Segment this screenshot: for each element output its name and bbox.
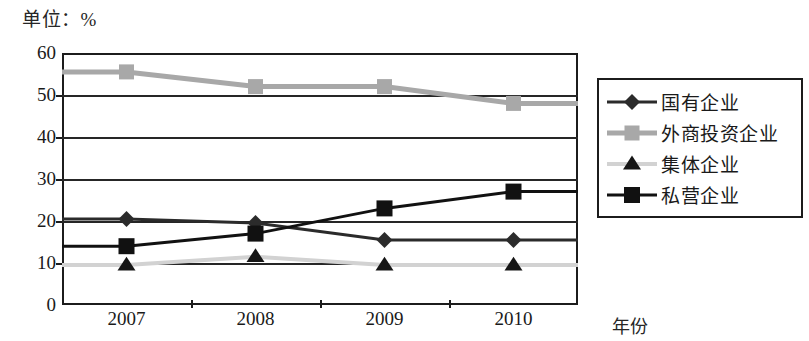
series-triangle: [62, 248, 578, 270]
series-line: [127, 72, 514, 104]
legend: 国有企业外商投资企业集体企业私营企业: [597, 78, 803, 218]
data-point-marker: [377, 79, 392, 94]
legend-label: 集体企业: [661, 150, 739, 177]
data-point-marker: [119, 64, 134, 79]
x-tick-mark: [320, 300, 322, 308]
plot-area: [62, 53, 578, 305]
square-marker: [605, 121, 659, 145]
chart-root: 单位：% 6050403020100 2007200820092010 年份 国…: [0, 0, 809, 341]
unit-caption: 单位：%: [22, 4, 97, 31]
x-axis-labels: 2007200820092010: [62, 308, 578, 338]
legend-label: 国有企业: [661, 88, 739, 115]
y-tick-label: 10: [10, 252, 56, 274]
diamond-marker: [605, 90, 659, 114]
x-tick-label: 2007: [108, 308, 146, 330]
series-diamond: [62, 211, 578, 248]
y-axis-labels: 6050403020100: [0, 53, 56, 305]
y-tick-label: 20: [10, 210, 56, 232]
legend-label: 私营企业: [661, 181, 739, 208]
x-tick-label: 2010: [495, 308, 533, 330]
y-tick-label: 60: [10, 42, 56, 64]
data-point-marker: [248, 79, 263, 94]
x-tick-label: 2009: [366, 308, 404, 330]
x-axis-title: 年份: [612, 312, 648, 338]
triangle-marker: [605, 152, 659, 176]
legend-item[interactable]: 私营企业: [599, 179, 801, 210]
data-point-marker: [506, 184, 522, 200]
series-line: [127, 257, 514, 265]
series-layer: [62, 53, 578, 305]
x-tick-label: 2008: [237, 308, 275, 330]
filled-square-marker: [605, 183, 659, 207]
legend-item[interactable]: 国有企业: [599, 86, 801, 117]
series-square: [62, 64, 578, 111]
legend-label: 外商投资企业: [661, 119, 778, 146]
legend-item[interactable]: 外商投资企业: [599, 117, 801, 148]
data-point-marker: [377, 200, 393, 216]
y-tick-label: 30: [10, 168, 56, 190]
data-point-marker: [119, 238, 135, 254]
x-tick-mark: [449, 300, 451, 308]
y-tick-label: 0: [10, 294, 56, 316]
data-point-marker: [119, 211, 135, 227]
legend-item[interactable]: 集体企业: [599, 148, 801, 179]
y-tick-label: 40: [10, 126, 56, 148]
data-point-marker: [377, 232, 393, 248]
data-point-marker: [506, 232, 522, 248]
x-tick-mark: [191, 300, 193, 308]
data-point-marker: [248, 226, 264, 242]
y-tick-label: 50: [10, 84, 56, 106]
series-line: [127, 192, 514, 247]
data-point-marker: [506, 96, 521, 111]
